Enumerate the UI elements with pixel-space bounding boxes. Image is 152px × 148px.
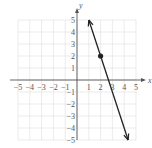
x-tick-label: −4 [26,83,35,92]
x-axis-label: x [147,76,152,85]
y-tick-label: 1 [71,64,75,73]
y-tick-label: 2 [71,52,75,61]
y-tick-label: −4 [66,124,75,133]
x-tick-label: −3 [37,83,46,92]
y-axis-label: y [78,1,83,10]
plotted-points [98,53,103,58]
y-tick-label: −5 [66,136,75,145]
x-tick-label: 5 [134,83,138,92]
y-tick-label: −1 [66,88,75,97]
y-tick-label: 4 [71,28,75,37]
y-tick-label: 5 [71,16,75,25]
tick-labels: −5−4−3−2−11234554321−1−2−3−4−5 [14,16,138,145]
y-tick-label: −3 [66,112,75,121]
axes: xy [10,1,152,140]
x-axis-arrow-icon [141,78,146,82]
x-tick-label: −2 [49,83,58,92]
data-point [98,53,103,58]
x-tick-label: −5 [14,83,23,92]
x-tick-label: 1 [87,83,91,92]
y-tick-label: 3 [71,40,75,49]
y-tick-label: −2 [66,100,75,109]
x-tick-label: 4 [122,83,126,92]
coordinate-plane: xy −5−4−3−2−11234554321−1−2−3−4−5 [0,0,152,148]
x-tick-label: 2 [99,83,103,92]
